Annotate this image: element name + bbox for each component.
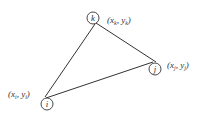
node-k-coords: (xk, yk)	[107, 15, 131, 26]
node-i: i	[41, 98, 53, 110]
edge-k-j	[96, 23, 156, 62]
node-i-coords: (xi, yi)	[8, 89, 30, 100]
edge-i-j	[46, 62, 153, 98]
node-j-label: j	[153, 64, 157, 74]
node-j: j	[149, 63, 161, 75]
node-k: k	[87, 12, 99, 24]
node-j-coords: (xj, yj)	[167, 60, 189, 71]
triangle-diagram: k (xk, yk) j (xj, yj) i (xi, yi)	[0, 0, 198, 121]
edge-k-i	[45, 24, 95, 97]
